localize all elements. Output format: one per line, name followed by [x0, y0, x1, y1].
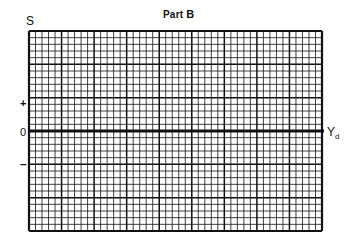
graph-paper-grid — [0, 0, 353, 247]
